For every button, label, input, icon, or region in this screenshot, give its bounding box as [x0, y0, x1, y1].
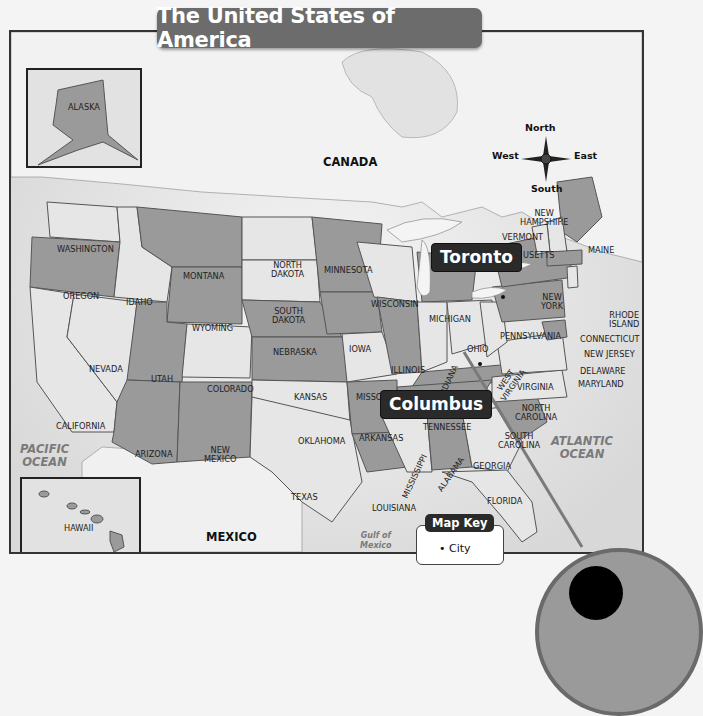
state-north-carolina: NORTH CAROLINA	[515, 404, 557, 421]
compass-west-label: West	[492, 150, 519, 161]
magnifier-circle	[535, 548, 703, 716]
state-pennsylvania: PENNSYLVANIA	[500, 332, 561, 341]
map-title: The United States of America	[157, 8, 482, 48]
magnifier-inner-dot	[569, 566, 623, 620]
state-maine: MAINE	[588, 246, 614, 255]
state-texas: TEXAS	[291, 493, 318, 502]
gulf-of-mexico-label: Gulf of Mexico	[360, 531, 392, 550]
hawaii-shape	[22, 479, 139, 554]
hawaii-label: HAWAII	[64, 524, 93, 533]
map-key-title: Map Key	[425, 514, 494, 532]
alaska-label: ALASKA	[68, 103, 100, 112]
state-iowa: IOWA	[349, 345, 371, 354]
state-connecticut: CONNECTICUT	[580, 335, 639, 344]
state-michigan: MICHIGAN	[429, 315, 471, 324]
map-key: Map Key • City	[416, 525, 504, 565]
state-new-mexico: NEW MEXICO	[204, 446, 236, 463]
state-rhode-island: RHODE ISLAND	[609, 311, 639, 328]
state-vermont: VERMONT	[502, 233, 543, 242]
state-colorado: COLORADO	[207, 385, 254, 394]
compass-star-icon	[521, 136, 571, 182]
compass-south-label: South	[531, 183, 562, 194]
state-louisiana: LOUISIANA	[372, 504, 416, 513]
state-new-hampshire: NEW HAMPSHIRE	[520, 209, 568, 226]
state-montana: MONTANA	[183, 272, 224, 281]
state-illinois: ILLINOIS	[391, 366, 425, 375]
state-tennessee: TENNESSEE	[423, 423, 471, 432]
state-california: CALIFORNIA	[56, 422, 105, 431]
state-arizona: ARIZONA	[135, 450, 172, 459]
state-delaware: DELAWARE	[580, 367, 626, 376]
state-kansas: KANSAS	[294, 393, 327, 402]
toronto-city-dot[interactable]	[501, 295, 505, 299]
alaska-shape	[28, 70, 140, 166]
state-maryland: MARYLAND	[578, 380, 624, 389]
state-utah: UTAH	[151, 375, 173, 384]
state-massachusetts: USETTS	[523, 251, 554, 260]
state-north-dakota: NORTH DAKOTA	[271, 261, 304, 278]
state-georgia: GEORGIA	[473, 462, 511, 471]
city-dot-icon: •	[439, 542, 449, 555]
state-wyoming: WYOMING	[192, 324, 233, 333]
state-virginia: VIRGINIA	[517, 383, 554, 392]
state-oregon: OREGON	[63, 292, 99, 301]
state-missouri: MISSO	[356, 393, 382, 402]
toronto-callout[interactable]: Toronto	[431, 243, 522, 272]
state-minnesota: MINNESOTA	[324, 266, 373, 275]
pacific-ocean-label: PACIFIC OCEAN	[20, 443, 69, 468]
state-south-carolina: SOUTH CAROLINA	[498, 432, 540, 449]
map-key-item-city: • City	[439, 542, 471, 555]
mexico-label: MEXICO	[206, 530, 257, 544]
compass-north-label: North	[525, 122, 555, 133]
map-frame: ALASKA HAWAII CANADA MEXICO PACIFIC OCEA…	[9, 30, 644, 554]
hawaii-inset: HAWAII	[20, 477, 141, 554]
columbus-city-dot[interactable]	[478, 362, 482, 366]
state-nevada: NEVADA	[89, 365, 123, 374]
state-oklahoma: OKLAHOMA	[298, 437, 345, 446]
state-arkansas: ARKANSAS	[359, 434, 403, 443]
state-washington: WASHINGTON	[57, 245, 114, 254]
alaska-inset: ALASKA	[26, 68, 142, 168]
compass-east-label: East	[574, 150, 597, 161]
canada-label: CANADA	[323, 155, 377, 169]
columbus-callout[interactable]: Columbus	[380, 390, 492, 419]
state-new-jersey: NEW JERSEY	[584, 350, 635, 359]
state-nebraska: NEBRASKA	[273, 348, 317, 357]
state-ohio: OHIO	[467, 345, 488, 354]
state-new-york: NEW YORK	[541, 293, 563, 310]
state-idaho: IDAHO	[126, 298, 153, 307]
state-florida: FLORIDA	[487, 497, 522, 506]
atlantic-ocean-label: ATLANTIC OCEAN	[551, 435, 613, 460]
state-south-dakota: SOUTH DAKOTA	[272, 307, 305, 324]
state-wisconsin: WISCONSIN	[371, 300, 419, 309]
